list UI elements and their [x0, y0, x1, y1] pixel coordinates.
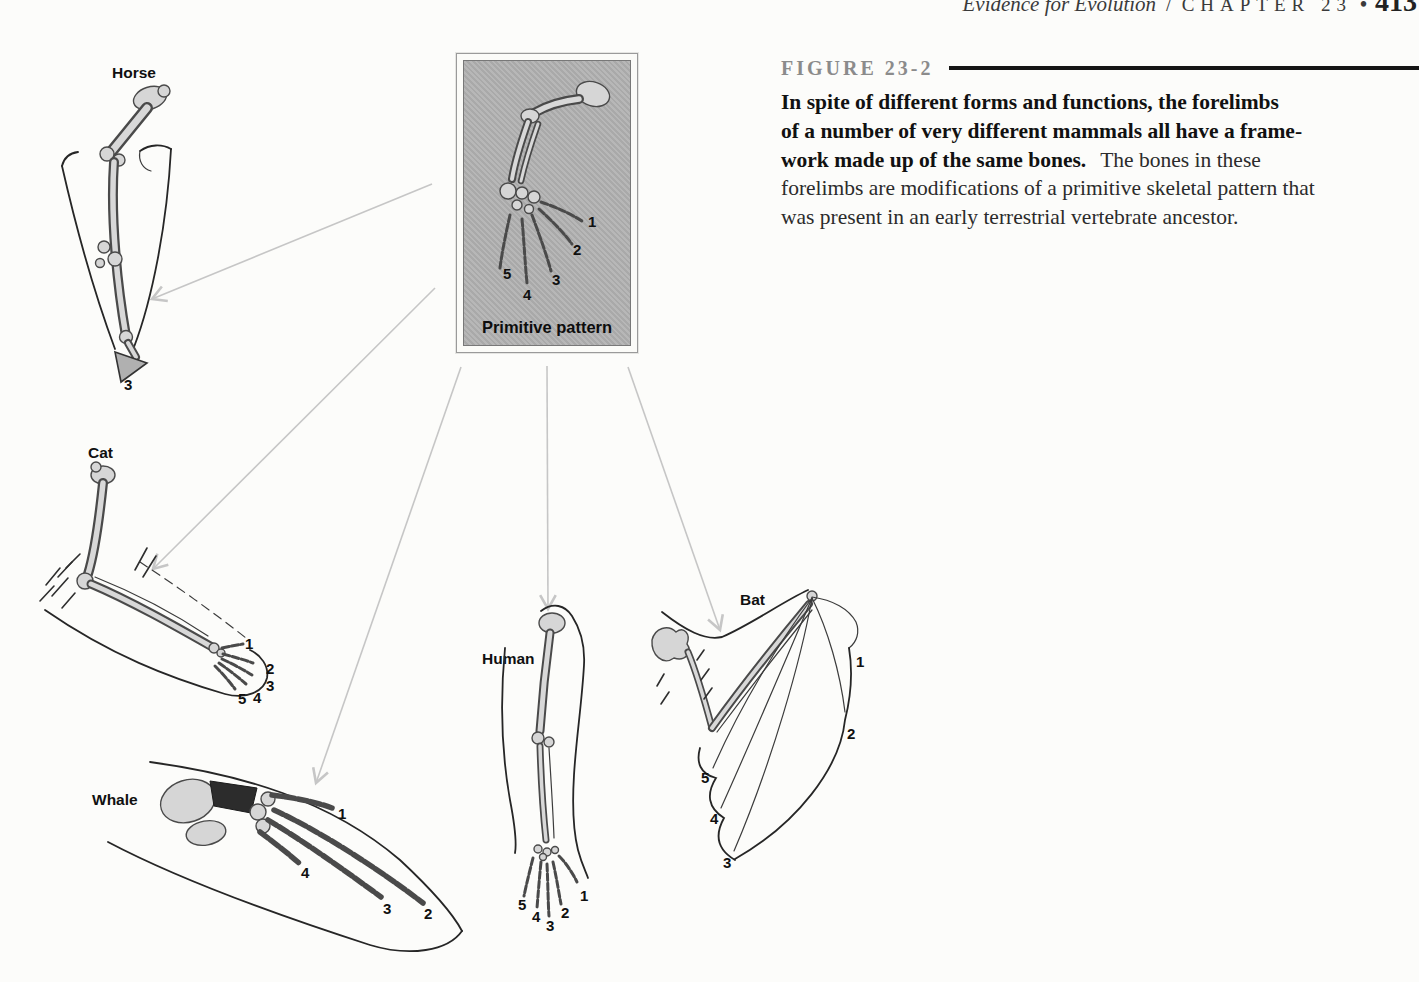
running-head-divider: /	[1166, 0, 1172, 16]
figure-caption-block: FIGURE 23-2 In spite of different forms …	[781, 57, 1419, 232]
cat-digit-4: 4	[253, 690, 261, 705]
horse-illustration	[55, 80, 275, 400]
primitive-digit-5: 5	[503, 266, 511, 281]
bat-digit-3: 3	[723, 855, 731, 870]
arrow-to-bat	[628, 367, 720, 630]
arrow-to-cat	[153, 288, 435, 569]
primitive-digit-4: 4	[523, 287, 531, 302]
whale-digit-4: 4	[301, 865, 309, 880]
arrow-to-whale	[316, 367, 461, 783]
caption-line-5: was present in an early terrestrial vert…	[781, 203, 1419, 232]
human-digit-2: 2	[561, 905, 569, 920]
primitive-pattern-panel: 1 2 3 4 5 Primitive pattern	[463, 60, 631, 346]
caption-line-3-bold: work made up of the same bones.	[781, 148, 1086, 172]
caption-line-3-regular: The bones in these	[1100, 148, 1261, 172]
figure-label: FIGURE 23-2	[781, 57, 933, 80]
arrow-to-horse	[152, 184, 432, 299]
caption-line-2: of a number of very different mammals al…	[781, 117, 1419, 146]
primitive-pattern-label: Primitive pattern	[464, 318, 630, 337]
primitive-pattern-illustration	[464, 61, 632, 347]
caption-line-1: In spite of different forms and function…	[781, 88, 1419, 117]
running-head-bullet: •	[1360, 0, 1367, 16]
whale-digit-3: 3	[383, 901, 391, 916]
running-head-title: Evidence for Evolution	[962, 0, 1156, 17]
cat-digit-5: 5	[238, 691, 246, 706]
human-digit-3: 3	[546, 918, 554, 933]
human-digit-5: 5	[518, 897, 526, 912]
figure-label-row: FIGURE 23-2	[781, 57, 1419, 80]
whale-digit-2: 2	[424, 906, 432, 921]
figure-rule	[949, 66, 1419, 70]
bat-digit-4: 4	[710, 811, 718, 826]
human-label: Human	[482, 650, 535, 668]
arrow-to-human	[547, 366, 548, 609]
primitive-digit-3: 3	[552, 272, 560, 287]
whale-illustration	[85, 740, 485, 980]
human-digit-1: 1	[580, 888, 588, 903]
textbook-page: Evidence for Evolution / CHAPTER 23 • 41…	[0, 0, 1419, 982]
bat-digit-5: 5	[701, 770, 709, 785]
whale-label: Whale	[92, 791, 138, 809]
primitive-digit-1: 1	[588, 214, 596, 229]
human-illustration	[475, 595, 630, 955]
bat-label: Bat	[740, 591, 765, 609]
bat-digit-1: 1	[856, 654, 864, 669]
figure-caption: In spite of different forms and function…	[781, 88, 1419, 232]
page-number: 413	[1375, 0, 1417, 18]
bat-illustration	[638, 580, 910, 892]
whale-digit-1: 1	[338, 806, 346, 821]
bat-digit-2: 2	[847, 726, 855, 741]
caption-line-4: forelimbs are modifications of a primiti…	[781, 174, 1419, 203]
primitive-pattern-box: 1 2 3 4 5 Primitive pattern	[456, 53, 638, 353]
running-head: Evidence for Evolution / CHAPTER 23 • 41…	[962, 0, 1417, 18]
cat-label: Cat	[88, 444, 113, 462]
running-head-chapter: CHAPTER 23	[1182, 0, 1352, 16]
horse-label: Horse	[112, 64, 156, 82]
cat-digit-3: 3	[266, 678, 274, 693]
horse-digit-3: 3	[124, 377, 132, 392]
human-digit-4: 4	[532, 909, 540, 924]
primitive-digit-2: 2	[573, 242, 581, 257]
cat-digit-2: 2	[266, 661, 274, 676]
cat-illustration	[30, 440, 305, 720]
caption-line-3: work made up of the same bones.The bones…	[781, 146, 1419, 175]
cat-digit-1: 1	[245, 636, 253, 651]
